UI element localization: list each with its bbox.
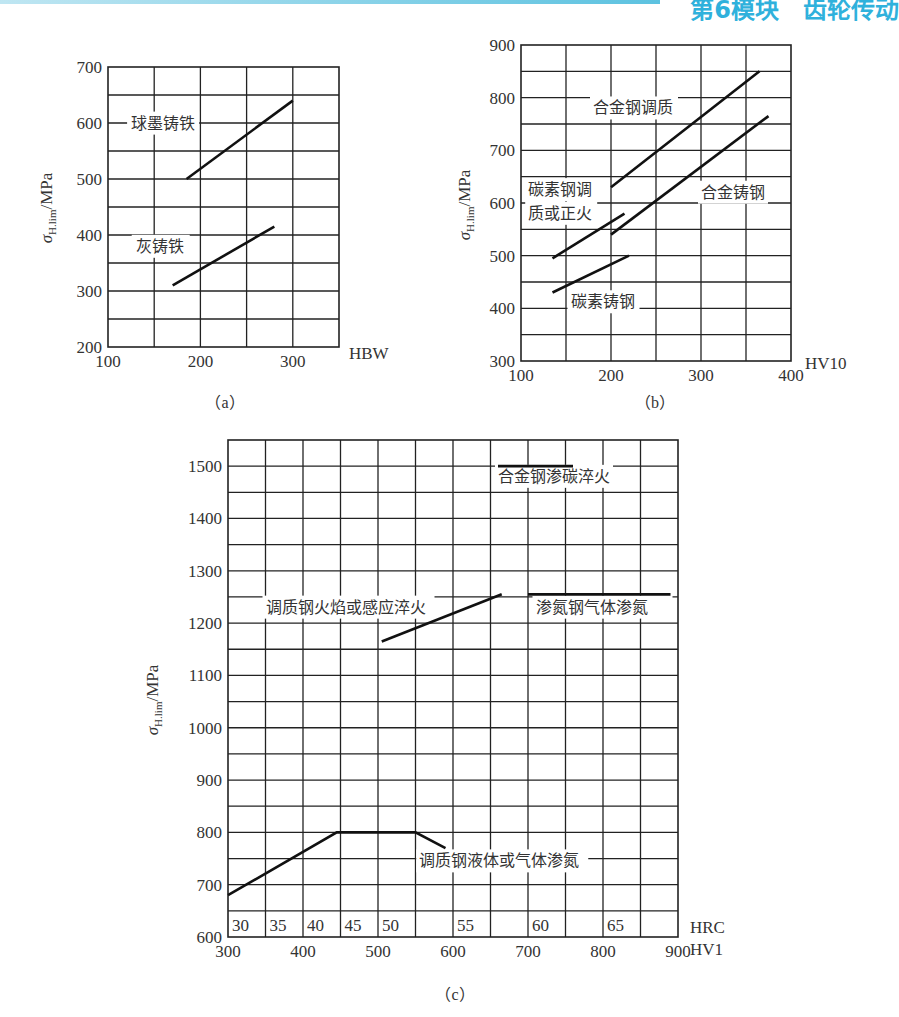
y-tick-label: 600 bbox=[490, 194, 516, 213]
series-annotation: 灰铸铁 bbox=[136, 237, 184, 256]
y-axis-label: σH.lim/MPa bbox=[455, 169, 476, 240]
x-tick-label: 400 bbox=[778, 366, 804, 385]
y-tick-label: 400 bbox=[77, 226, 103, 245]
series-annotation: 合金铸钢 bbox=[701, 183, 765, 202]
x-tick-label: 300 bbox=[215, 942, 241, 961]
y-tick-label: 500 bbox=[77, 170, 103, 189]
x-tick-label: 300 bbox=[688, 366, 714, 385]
y-tick-label: 1400 bbox=[188, 509, 222, 528]
x-tick-label: 900 bbox=[665, 942, 691, 961]
series-line bbox=[553, 256, 630, 293]
series-line bbox=[228, 832, 446, 895]
y-axis-label-unit: /MPa bbox=[455, 169, 474, 206]
y-tick-label: 1000 bbox=[188, 719, 222, 738]
hrc-tick-label: 60 bbox=[532, 916, 549, 935]
y-tick-label: 1300 bbox=[188, 562, 222, 581]
x-axis-label: HV10 bbox=[805, 354, 847, 373]
y-axis-label-subscript: H.lim bbox=[464, 206, 476, 232]
y-tick-label: 300 bbox=[77, 282, 103, 301]
series-annotation: 调质钢液体或气体渗氮 bbox=[419, 851, 579, 870]
series-line bbox=[611, 116, 769, 235]
x-tick-label: 200 bbox=[598, 366, 624, 385]
y-tick-label: 1100 bbox=[189, 666, 222, 685]
series-annotation: 调质钢火焰或感应淬火 bbox=[266, 598, 426, 617]
series-annotation: 合金钢渗碳淬火 bbox=[498, 467, 610, 486]
y-tick-label: 600 bbox=[77, 114, 103, 133]
x-tick-label: 200 bbox=[188, 352, 214, 371]
y-tick-label: 700 bbox=[77, 58, 103, 77]
x-tick-label: 400 bbox=[290, 942, 316, 961]
y-tick-label: 400 bbox=[490, 299, 516, 318]
series-annotation: 碳素铸钢 bbox=[571, 292, 635, 311]
hrc-tick-label: 45 bbox=[345, 916, 362, 935]
hrc-tick-label: 55 bbox=[457, 916, 474, 935]
y-axis-label-subscript: H.lim bbox=[46, 209, 58, 235]
series-annotation: 渗氮钢气体渗氮 bbox=[536, 598, 648, 617]
y-axis-label-unit: /MPa bbox=[37, 172, 56, 209]
x-tick-label: 100 bbox=[95, 352, 121, 371]
hrc-tick-label: 35 bbox=[270, 916, 287, 935]
hrc-tick-label: 40 bbox=[307, 916, 324, 935]
x-axis-label-hrc: HRC bbox=[690, 918, 725, 937]
series-annotation: 球墨铸铁 bbox=[131, 114, 195, 133]
x-axis-label: HBW bbox=[349, 344, 390, 363]
y-tick-label: 900 bbox=[197, 771, 223, 790]
y-tick-label: 900 bbox=[490, 36, 516, 55]
chart-a: 200300400500600700100200300HBWσH.lim/MPa… bbox=[37, 58, 390, 411]
series-annotation: 碳素钢调 bbox=[528, 180, 592, 199]
y-tick-label: 800 bbox=[490, 89, 516, 108]
y-tick-label: 500 bbox=[490, 247, 516, 266]
y-tick-label: 1500 bbox=[188, 457, 222, 476]
chart-b: 300400500600700800900100200300400HV10σH.… bbox=[455, 36, 847, 411]
y-tick-label: 800 bbox=[197, 823, 223, 842]
hrc-tick-label: 30 bbox=[232, 916, 249, 935]
chart-c: 6007008009001000110012001300140015003004… bbox=[143, 440, 725, 1003]
y-tick-label: 700 bbox=[197, 876, 223, 895]
series-line bbox=[187, 101, 293, 179]
x-tick-label: 300 bbox=[280, 352, 306, 371]
chart-caption: （c） bbox=[435, 986, 474, 1003]
chart-caption: （a） bbox=[205, 394, 244, 411]
x-tick-label: 700 bbox=[515, 942, 541, 961]
chart-caption: （b） bbox=[635, 394, 675, 411]
y-axis-label-subscript: H.lim bbox=[152, 701, 164, 727]
y-axis-label-unit: /MPa bbox=[143, 664, 162, 701]
x-tick-label: 100 bbox=[508, 366, 534, 385]
y-tick-label: 1200 bbox=[188, 614, 222, 633]
x-tick-label: 500 bbox=[365, 942, 391, 961]
series-annotation: 质或正火 bbox=[528, 204, 592, 223]
x-tick-label: 600 bbox=[440, 942, 466, 961]
series-line bbox=[611, 71, 760, 187]
hrc-tick-label: 50 bbox=[382, 916, 399, 935]
x-axis-label: HV1 bbox=[690, 940, 723, 959]
x-tick-label: 800 bbox=[590, 942, 616, 961]
y-tick-label: 700 bbox=[490, 141, 516, 160]
y-axis-label: σH.lim/MPa bbox=[143, 664, 164, 735]
hrc-tick-label: 65 bbox=[607, 916, 624, 935]
y-axis-label: σH.lim/MPa bbox=[37, 172, 58, 243]
series-annotation: 合金钢调质 bbox=[593, 98, 673, 117]
